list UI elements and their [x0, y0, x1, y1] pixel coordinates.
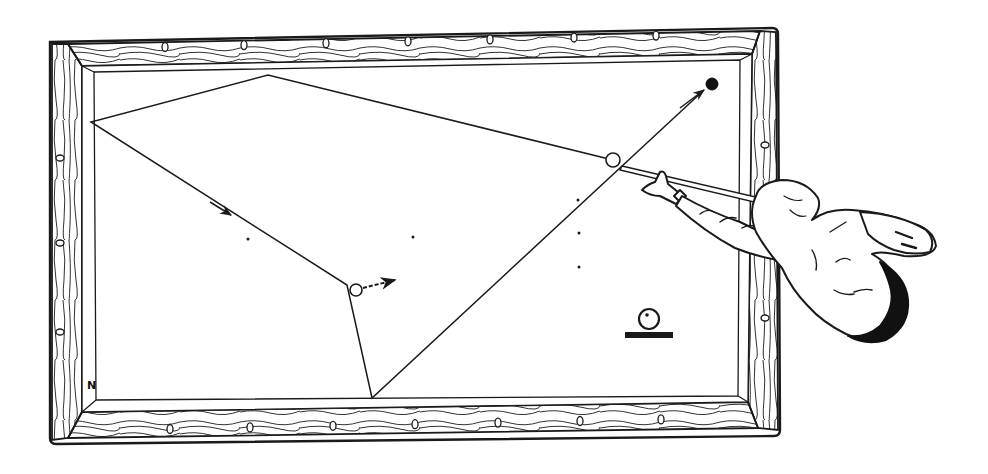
target-ball [706, 78, 718, 90]
billiards-diagram [0, 0, 988, 474]
cue-ball [606, 153, 620, 167]
table-spot [247, 238, 250, 241]
diamond-marker [571, 33, 577, 42]
table-spot [577, 199, 580, 202]
object-ball [350, 284, 362, 296]
diamond-marker [577, 417, 583, 426]
diamond-marker [653, 31, 659, 40]
diamond-marker [487, 35, 493, 44]
diamond-marker [323, 39, 329, 48]
diamond-marker [405, 37, 411, 46]
diamond-marker [761, 142, 769, 148]
diamond-marker [495, 418, 501, 427]
table-spot [578, 266, 581, 269]
diamond-marker [330, 421, 336, 430]
diamond-marker [412, 420, 418, 429]
diamond-marker [56, 155, 64, 161]
diamond-marker [658, 415, 664, 424]
diamond-marker [56, 240, 64, 246]
diamond-marker [247, 423, 253, 432]
diamond-marker [241, 41, 247, 50]
diamond-marker [162, 43, 168, 52]
corner-label: N [87, 379, 95, 392]
table [50, 28, 780, 444]
table-spot [412, 236, 415, 239]
table-spot [578, 232, 581, 235]
diamond-marker [56, 329, 64, 335]
diamond-marker [761, 315, 769, 321]
diamond-marker [167, 425, 173, 434]
